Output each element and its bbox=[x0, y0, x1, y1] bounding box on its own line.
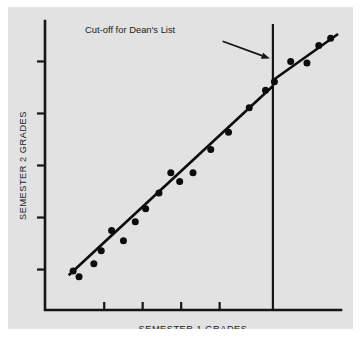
data-point bbox=[271, 78, 278, 85]
data-point bbox=[90, 260, 97, 267]
data-point bbox=[155, 189, 162, 196]
data-point bbox=[190, 169, 197, 176]
data-point bbox=[225, 129, 232, 136]
x-axis-title: SEMESTER 1 GRADES bbox=[139, 324, 248, 329]
y-axis-title: SEMESTER 2 GRADES bbox=[18, 111, 28, 220]
data-point bbox=[262, 87, 269, 94]
data-point bbox=[303, 59, 310, 66]
data-point bbox=[120, 237, 127, 244]
arrow-head bbox=[261, 53, 270, 59]
cutoff-arrow-icon bbox=[223, 41, 270, 58]
data-point bbox=[287, 58, 294, 65]
cutoff-annotation-label: Cut-off for Dean's List bbox=[85, 24, 176, 35]
plot-panel: Cut-off for Dean's List SEMESTER 1 GRADE… bbox=[8, 7, 353, 329]
data-point bbox=[70, 267, 77, 274]
data-point bbox=[98, 247, 105, 254]
data-point bbox=[76, 273, 83, 280]
data-point bbox=[132, 218, 139, 225]
data-point bbox=[108, 227, 115, 234]
regression-above-cutoff bbox=[273, 34, 338, 80]
data-point bbox=[327, 35, 334, 42]
scatter-plot-figure: Cut-off for Dean's List SEMESTER 1 GRADE… bbox=[0, 0, 361, 343]
arrow-shaft bbox=[223, 41, 262, 55]
plot-canvas: Cut-off for Dean's List SEMESTER 1 GRADE… bbox=[8, 7, 353, 329]
data-point bbox=[207, 146, 214, 153]
regression-line-group bbox=[69, 34, 338, 275]
data-point bbox=[315, 42, 322, 49]
regression-below-cutoff bbox=[69, 86, 273, 275]
data-point bbox=[176, 178, 183, 185]
data-point bbox=[246, 104, 253, 111]
data-point bbox=[167, 169, 174, 176]
data-point bbox=[142, 205, 149, 212]
